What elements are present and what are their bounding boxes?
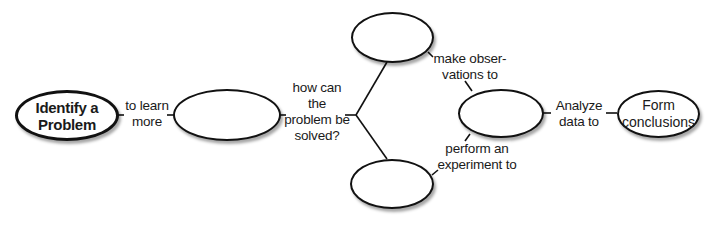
node-form-conclusions-label: Form conclusions — [622, 97, 695, 131]
link-label-to-learn-more: to learn more — [122, 98, 172, 130]
link-label-analyze-data: Analyze data to — [551, 98, 607, 130]
node-research-blank[interactable] — [173, 89, 281, 141]
node-identify-problem: Identify a Problem — [15, 90, 119, 141]
node-experiment-blank[interactable] — [350, 159, 434, 209]
node-identify-problem-label: Identify a Problem — [36, 99, 99, 133]
link-label-perform-experiment: perform an experiment to — [432, 141, 522, 173]
node-form-conclusions: Form conclusions — [617, 90, 700, 138]
link-label-how-solved: how can the problem be solved? — [282, 80, 352, 144]
node-analyze-blank[interactable] — [458, 89, 544, 138]
link-label-make-observations: make obser- vations to — [432, 51, 508, 83]
node-observation-blank[interactable] — [351, 12, 434, 63]
